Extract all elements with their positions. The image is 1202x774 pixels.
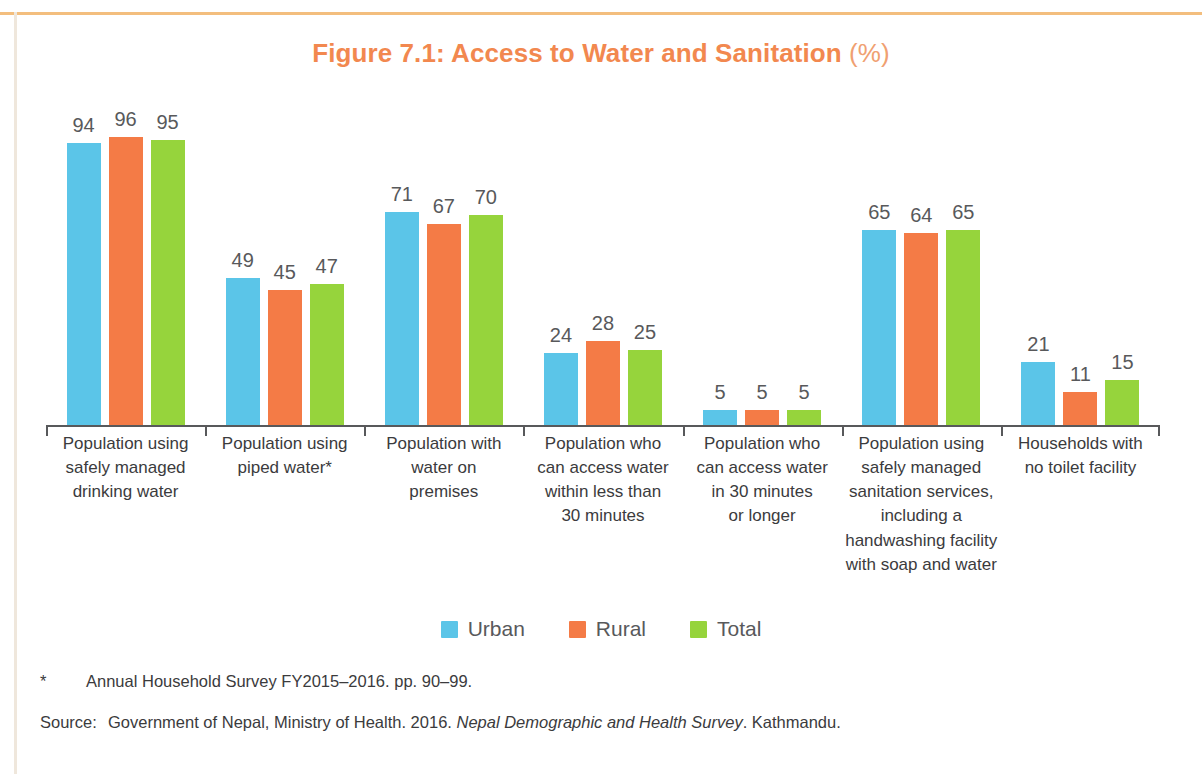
bar-rural[interactable]: 64 [904,100,938,425]
bar-rect[interactable] [1021,362,1055,425]
bar-rect[interactable] [745,410,779,425]
category-label-line: water on [364,456,523,480]
bar-rural[interactable]: 96 [109,100,143,425]
bar-rect[interactable] [268,290,302,425]
legend-label: Total [717,617,761,641]
x-axis-tick [1001,425,1003,436]
category-label: Population whocan access waterwithin les… [523,432,682,529]
source-prefix: Government of Nepal, Ministry of Health.… [108,713,457,731]
bar-urban[interactable]: 49 [226,100,260,425]
category-label: Population withwater onpremises [364,432,523,504]
category-label-line: Population who [523,432,682,456]
bar-total[interactable]: 5 [787,100,821,425]
category-label-line: Population using [205,432,364,456]
bar-value-label: 65 [868,201,890,224]
bar-group-bars: 555 [683,100,842,425]
bar-group-bars: 211115 [1001,100,1160,425]
bar-value-label: 70 [475,186,497,209]
category-label: Population usingpiped water* [205,432,364,480]
bar-total[interactable]: 15 [1105,100,1139,425]
bar-total[interactable]: 25 [628,100,662,425]
bar-group-bars: 242825 [523,100,682,425]
bar-value-label: 64 [910,204,932,227]
bar-rect[interactable] [904,233,938,425]
bar-total[interactable]: 47 [310,100,344,425]
bar-group-bars: 656465 [842,100,1001,425]
bar-rect[interactable] [385,212,419,425]
bar-value-label: 71 [391,183,413,206]
category-label-line: piped water* [205,456,364,480]
category-label-line: premises [364,480,523,504]
bar-urban[interactable]: 94 [67,100,101,425]
bar-value-label: 45 [274,261,296,284]
category-label-line: sanitation services, [842,480,1001,504]
category-label-line: no toilet facility [1001,456,1160,480]
bar-rural[interactable]: 28 [586,100,620,425]
bar-rect[interactable] [151,140,185,425]
x-axis-tick [364,425,366,436]
chart-plot-area: 949695Population usingsafely manageddrin… [46,100,1160,425]
bar-value-label: 28 [592,312,614,335]
bar-rect[interactable] [544,353,578,425]
legend-item-total[interactable]: Total [690,617,761,641]
category-label-line: 30 minutes [523,504,682,528]
category-label-line: in 30 minutes [683,480,842,504]
bar-rural[interactable]: 45 [268,100,302,425]
bar-rect[interactable] [469,215,503,425]
category-label-line: within less than [523,480,682,504]
source-text: Government of Nepal, Ministry of Health.… [108,713,841,732]
bar-rect[interactable] [1063,392,1097,425]
bar-rural[interactable]: 5 [745,100,779,425]
figure-title-unit: (%) [849,38,890,68]
bar-total[interactable]: 70 [469,100,503,425]
source-label: Source: [40,713,108,732]
legend-label: Urban [468,617,525,641]
bar-rural[interactable]: 67 [427,100,461,425]
bar-total[interactable]: 65 [946,100,980,425]
bar-rect[interactable] [226,278,260,425]
bar-total[interactable]: 95 [151,100,185,425]
bar-urban[interactable]: 24 [544,100,578,425]
bar-rect[interactable] [946,230,980,425]
footnote-text: Annual Household Survey FY2015–2016. pp.… [86,672,472,691]
category-label-line: Population with [364,432,523,456]
bar-urban[interactable]: 71 [385,100,419,425]
bar-urban[interactable]: 21 [1021,100,1055,425]
bar-rect[interactable] [427,224,461,425]
bar-rect[interactable] [862,230,896,425]
bar-value-label: 21 [1027,333,1049,356]
bar-rect[interactable] [787,410,821,425]
bar-value-label: 15 [1111,351,1133,374]
footnote-marker: * [40,672,86,691]
bar-urban[interactable]: 65 [862,100,896,425]
legend-item-rural[interactable]: Rural [569,617,646,641]
bar-rect[interactable] [703,410,737,425]
x-axis-tick [523,425,525,436]
legend-swatch-icon [569,621,586,638]
bar-rect[interactable] [310,284,344,425]
bar-value-label: 65 [952,201,974,224]
category-label-line: Population who [683,432,842,456]
bar-urban[interactable]: 5 [703,100,737,425]
x-axis-line [46,425,1160,427]
category-label-line: with soap and water [842,553,1001,577]
category-label-line: safely managed [842,456,1001,480]
bar-rect[interactable] [109,137,143,425]
bar-value-label: 5 [799,381,810,404]
bar-rect[interactable] [628,350,662,425]
bar-group: 555Population whocan access waterin 30 m… [683,100,842,425]
figure-footnote: * Annual Household Survey FY2015–2016. p… [40,672,472,691]
category-label: Population usingsafely managedsanitation… [842,432,1001,577]
bar-rect[interactable] [1105,380,1139,425]
page-border-top [0,12,1202,15]
figure-page: Figure 7.1: Access to Water and Sanitati… [0,0,1202,774]
bar-rural[interactable]: 11 [1063,100,1097,425]
legend-item-urban[interactable]: Urban [441,617,525,641]
bar-rect[interactable] [586,341,620,425]
bar-group: 716770Population withwater onpremises [364,100,523,425]
bar-group: 211115Households withno toilet facility [1001,100,1160,425]
bar-value-label: 5 [715,381,726,404]
figure-title: Figure 7.1: Access to Water and Sanitati… [0,38,1202,69]
bar-rect[interactable] [67,143,101,425]
x-axis-tick [205,425,207,436]
